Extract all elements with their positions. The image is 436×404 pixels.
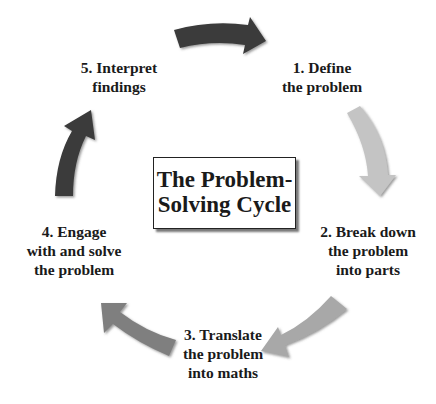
arrow-3-to-4-icon: [101, 303, 176, 356]
arrow-2-to-3-icon: [261, 296, 347, 357]
step-2-break-down: 2. Break down the problem into parts: [312, 222, 424, 279]
step-4-line-2: with and solve: [14, 241, 134, 260]
step-4-engage-solve: 4. Engage with and solve the problem: [14, 222, 134, 279]
step-2-line-1: 2. Break down: [312, 222, 424, 241]
step-3-line-3: into maths: [178, 363, 268, 382]
cycle-title-box: The Problem- Solving Cycle: [153, 157, 296, 229]
step-4-line-3: the problem: [14, 260, 134, 279]
arrow-1-to-2-icon: [347, 106, 396, 196]
arrow-5-to-1-icon: [174, 17, 266, 54]
cycle-title-line-2: Solving Cycle: [154, 192, 295, 217]
step-2-line-3: into parts: [312, 260, 424, 279]
step-5-interpret-findings: 5. Interpret findings: [70, 58, 168, 96]
step-4-line-1: 4. Engage: [14, 222, 134, 241]
step-3-translate: 3. Translate the problem into maths: [178, 325, 268, 382]
cycle-title-line-1: The Problem-: [154, 167, 295, 192]
step-1-define-problem: 1. Define the problem: [272, 58, 372, 96]
arrow-4-to-5-icon: [55, 110, 95, 196]
step-3-line-2: the problem: [178, 344, 268, 363]
cycle-title: The Problem- Solving Cycle: [154, 167, 295, 217]
step-5-line-2: findings: [70, 77, 168, 96]
step-2-line-2: the problem: [312, 241, 424, 260]
step-5-line-1: 5. Interpret: [70, 58, 168, 77]
step-3-line-1: 3. Translate: [178, 325, 268, 344]
step-1-line-1: 1. Define: [272, 58, 372, 77]
step-1-line-2: the problem: [272, 77, 372, 96]
